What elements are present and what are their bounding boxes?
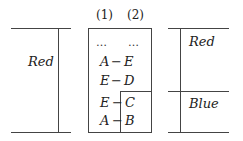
ellipsis-col1: … — [96, 38, 108, 48]
row-2-col2: D — [124, 74, 134, 88]
right-bottom-line — [168, 132, 229, 133]
right-vertical-line — [180, 28, 181, 132]
row-2-sep: − — [111, 74, 122, 88]
row-4-col2: B — [125, 114, 135, 128]
row-1-col2: E — [124, 55, 134, 69]
row-3-col2: C — [125, 96, 135, 110]
row-2-col1: E — [100, 74, 110, 88]
ellipsis-col2: … — [128, 38, 140, 48]
right-middle-line — [168, 91, 229, 92]
column-header-2: (2) — [127, 8, 144, 22]
column-header-1: (1) — [96, 8, 113, 22]
row-3-sep: − — [112, 96, 123, 110]
left-red-label: Red — [28, 55, 54, 69]
left-vertical-line — [58, 28, 59, 132]
right-blue-label: Blue — [189, 97, 219, 111]
row-4-sep: − — [112, 114, 123, 128]
row-4-col1: A — [100, 114, 109, 128]
right-red-label: Red — [189, 35, 215, 49]
right-top-line — [168, 28, 229, 29]
row-1-sep: − — [111, 55, 122, 69]
left-bottom-line — [11, 132, 71, 133]
row-3-col1: E — [100, 96, 110, 110]
left-top-line — [11, 28, 71, 29]
row-1-col1: A — [100, 55, 109, 69]
